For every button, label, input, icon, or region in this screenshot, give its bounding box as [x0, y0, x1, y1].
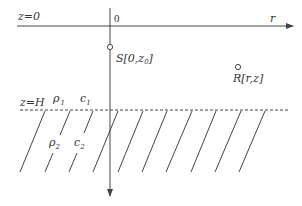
surface-label: z=0	[17, 10, 40, 23]
layer1-speed: c1	[80, 92, 91, 107]
source-label: S[0,z0]	[116, 52, 154, 66]
receiver-label: R[r,z]	[232, 72, 264, 85]
r-axis-label: r	[270, 12, 276, 25]
seabed-hatching	[20, 111, 265, 172]
waveguide-diagram: r z=0 0 S[0,z0] R[r,z] z=H ρ1 c1 ρ2 c2	[0, 0, 302, 206]
layer2-density: ρ2	[48, 136, 60, 151]
layer2-speed: c2	[74, 136, 85, 151]
interface-label: z=H	[19, 96, 45, 109]
receiver-point	[235, 64, 240, 69]
source-point	[107, 44, 112, 49]
origin-label: 0	[114, 12, 120, 24]
layer1-density: ρ1	[52, 92, 65, 107]
